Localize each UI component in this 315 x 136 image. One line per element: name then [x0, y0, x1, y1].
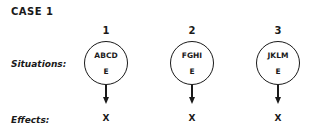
effect-label: X [268, 113, 288, 123]
arrow-down-icon [103, 97, 109, 104]
case-number: 1 [96, 25, 116, 36]
situations-label: Situations: [11, 59, 66, 69]
situation-label: ABCD [84, 51, 128, 60]
arrow-down-icon [275, 97, 281, 104]
case-number: 3 [268, 25, 288, 36]
case-title: CASE 1 [11, 6, 54, 17]
situation-circle [256, 41, 300, 85]
effect-label: X [182, 113, 202, 123]
situation-circle [84, 41, 128, 85]
situation-label: JKLM [256, 51, 300, 60]
case-number: 2 [182, 25, 202, 36]
inner-label: E [170, 67, 214, 76]
situation-label: FGHI [170, 51, 214, 60]
effects-label: Effects: [11, 115, 49, 125]
situation-circle [170, 41, 214, 85]
arrow-down-icon [189, 97, 195, 104]
inner-label: E [256, 67, 300, 76]
inner-label: E [84, 67, 128, 76]
effect-label: X [96, 113, 116, 123]
